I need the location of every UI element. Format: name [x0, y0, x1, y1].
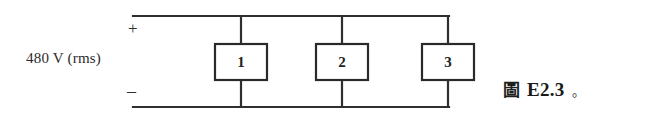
load-box-2-label: 2 — [316, 55, 368, 70]
figure-caption: 圖 E2.3 。 — [503, 80, 585, 102]
caption-reference: E2.3 — [527, 80, 565, 100]
figure-e2-3: 480 V (rms) + – 1 2 3 圖 E2.3 。 — [0, 0, 647, 121]
load-box-1-label: 1 — [215, 55, 267, 70]
positive-terminal-marker: + — [128, 20, 138, 37]
caption-cjk-label: 圖 — [503, 80, 520, 100]
source-voltage-label: 480 V (rms) — [26, 49, 101, 67]
load-box-3-label: 3 — [422, 55, 474, 70]
caption-terminator: 。 — [572, 82, 585, 102]
negative-terminal-marker: – — [127, 83, 136, 100]
